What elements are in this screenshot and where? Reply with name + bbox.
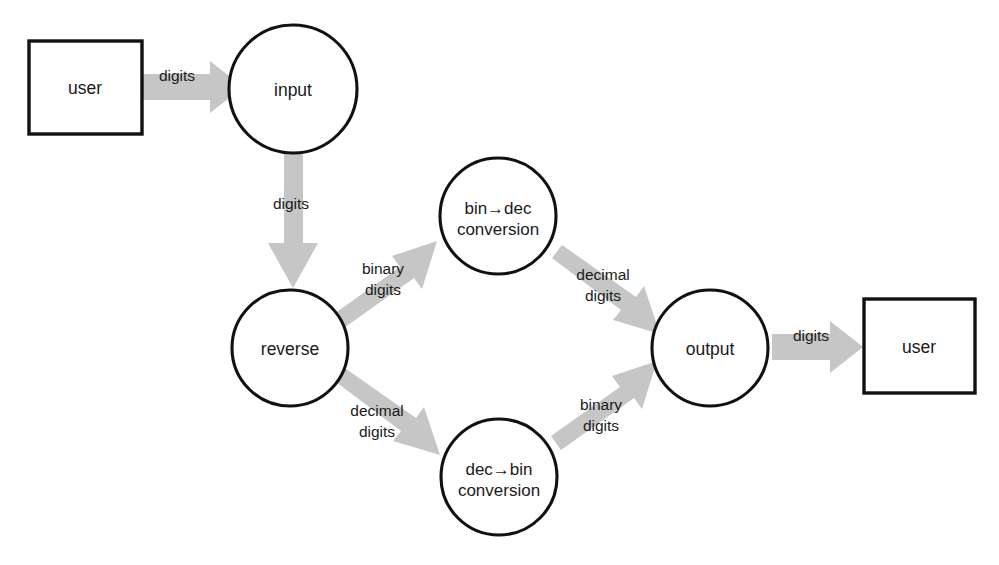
- node-user-right[interactable]: user: [864, 299, 975, 393]
- dec-to-bin-label-line1: dec→bin: [465, 460, 532, 479]
- flow-arrow-input-to-reverse: [268, 152, 318, 288]
- node-reverse[interactable]: reverse: [232, 290, 348, 406]
- edge-label-input-to-reverse: digits: [273, 195, 309, 212]
- node-output[interactable]: output: [652, 290, 768, 406]
- edge-label-decbin-to-output-line2: digits: [583, 417, 619, 434]
- edge-label-bindec-to-output-line1: decimal: [576, 266, 629, 283]
- reverse-label: reverse: [261, 339, 319, 359]
- input-label: input: [274, 80, 312, 100]
- edge-label-bindec-to-output-line2: digits: [585, 287, 621, 304]
- node-bin-to-dec-conversion[interactable]: bin→dec conversion: [440, 158, 556, 274]
- edge-label-reverse-to-bindec-line2: digits: [365, 281, 401, 298]
- node-user-left[interactable]: user: [29, 41, 142, 134]
- dec-to-bin-label-line2: conversion: [458, 481, 540, 500]
- edge-label-reverse-to-decbin-line2: digits: [359, 423, 395, 440]
- bin-to-dec-label-line2: conversion: [457, 220, 539, 239]
- edge-label-output-to-user: digits: [793, 327, 829, 344]
- user-right-label: user: [902, 337, 936, 357]
- output-label: output: [686, 339, 735, 359]
- edge-label-decbin-to-output-line1: binary: [580, 396, 622, 413]
- node-dec-to-bin-conversion[interactable]: dec→bin conversion: [441, 419, 557, 535]
- data-flow-diagram: user input reverse bin→dec conversion de…: [0, 0, 999, 565]
- bin-to-dec-label-line1: bin→dec: [464, 199, 532, 218]
- edge-label-reverse-to-bindec-line1: binary: [362, 260, 404, 277]
- user-left-label: user: [68, 78, 102, 98]
- edge-label-user-to-input: digits: [159, 67, 195, 84]
- diagram-canvas: user input reverse bin→dec conversion de…: [0, 0, 999, 565]
- node-input[interactable]: input: [229, 25, 357, 153]
- edge-label-reverse-to-decbin-line1: decimal: [350, 402, 403, 419]
